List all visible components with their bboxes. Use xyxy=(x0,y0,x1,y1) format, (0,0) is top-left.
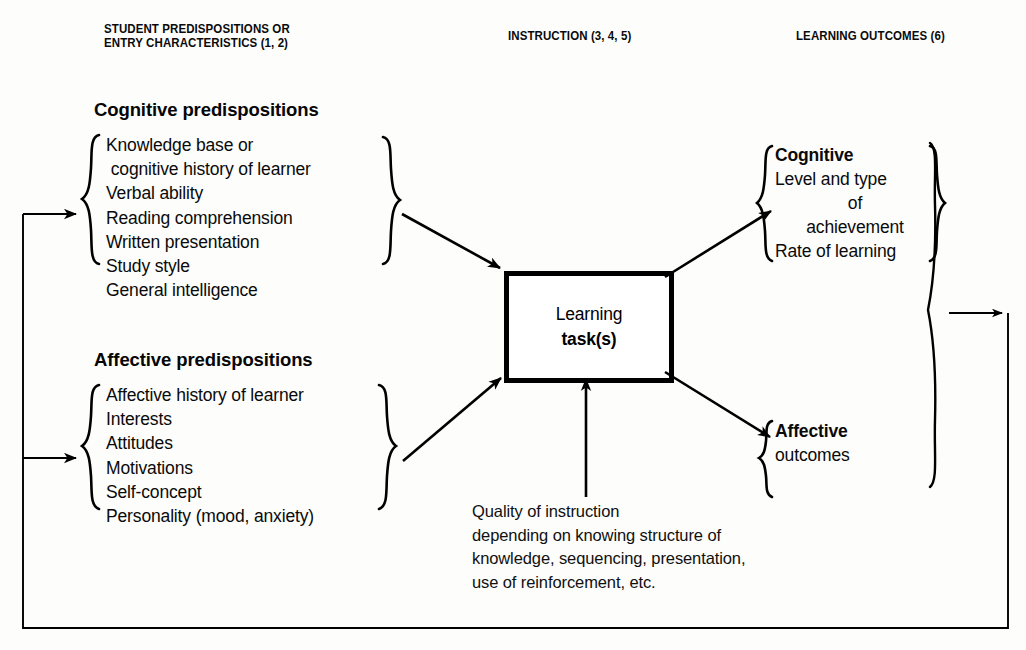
outcome-line: outcomes xyxy=(775,443,935,467)
caption-line: Quality of instruction xyxy=(472,500,745,524)
list-item: Motivations xyxy=(106,456,314,480)
arrow-task-to-cognitive-outcomes xyxy=(665,211,771,277)
list-item: Study style xyxy=(106,254,311,278)
outcome-line: Level and type xyxy=(775,167,935,191)
list-item: cognitive history of learner xyxy=(106,157,311,181)
affective-outcomes-heading: Affective xyxy=(775,419,935,443)
brace-cognitive-predispositions-right xyxy=(383,137,400,264)
learning-task-line2: task(s) xyxy=(561,327,616,352)
group-title-affective-predispositions: Affective predispositions xyxy=(94,349,313,371)
affective-outcomes-block: Affective outcomes xyxy=(775,419,935,467)
list-item: Reading comprehension xyxy=(106,206,311,230)
caption-line: depending on knowing structure of xyxy=(472,524,745,548)
group-title-cognitive-predispositions: Cognitive predispositions xyxy=(94,99,319,121)
list-item: Affective history of learner xyxy=(106,383,314,407)
caption-line: use of reinforcement, etc. xyxy=(472,571,745,595)
brace-cognitive-predispositions-left xyxy=(82,135,99,264)
cognitive-outcomes-block: Cognitive Level and type of achievement … xyxy=(775,143,935,263)
learning-task-box: Learning task(s) xyxy=(504,271,674,383)
list-item: Verbal ability xyxy=(106,181,311,205)
list-item: Interests xyxy=(106,407,314,431)
list-item: Written presentation xyxy=(106,230,311,254)
outcome-line: Rate of learning xyxy=(775,239,935,263)
column-header-learning-outcomes: LEARNING OUTCOMES (6) xyxy=(796,29,945,43)
brace-affective-predispositions-right xyxy=(379,385,396,509)
cognitive-outcomes-heading: Cognitive xyxy=(775,143,935,167)
caption-line: knowledge, sequencing, presentation, xyxy=(472,547,745,571)
arrow-task-to-affective-outcomes xyxy=(665,372,770,437)
arrow-cognitive-to-task xyxy=(402,214,500,268)
list-item: General intelligence xyxy=(106,278,311,302)
list-item: Attitudes xyxy=(106,431,314,455)
learning-task-line1: Learning xyxy=(556,302,623,327)
outcome-line: achievement xyxy=(775,215,935,239)
instruction-quality-caption: Quality of instruction depending on know… xyxy=(472,500,745,594)
list-item: Knowledge base or xyxy=(106,133,311,157)
cognitive-predispositions-list: Knowledge base or cognitive history of l… xyxy=(106,133,311,302)
brace-affective-outcomes-left xyxy=(759,421,772,497)
diagram-canvas: STUDENT PREDISPOSITIONS OR ENTRY CHARACT… xyxy=(0,0,1026,650)
column-header-instruction: INSTRUCTION (3, 4, 5) xyxy=(508,29,631,43)
outcome-line: of xyxy=(775,191,935,215)
list-item: Self-concept xyxy=(106,480,314,504)
affective-predispositions-list: Affective history of learner Interests A… xyxy=(106,383,314,528)
arrow-affective-to-task xyxy=(403,378,501,461)
brace-affective-predispositions-left xyxy=(82,385,99,509)
list-item: Personality (mood, anxiety) xyxy=(106,504,314,528)
column-header-student-predispositions: STUDENT PREDISPOSITIONS OR ENTRY CHARACT… xyxy=(104,22,290,50)
brace-cognitive-outcomes-left xyxy=(757,146,772,261)
